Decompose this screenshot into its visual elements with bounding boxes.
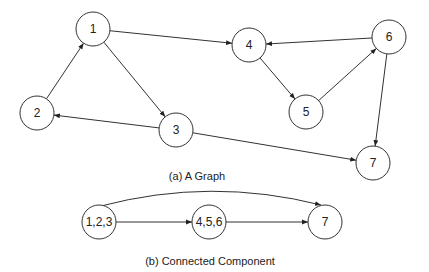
- graph-a-node-6: 6: [372, 20, 406, 54]
- graph-b-node-c456: 4,5,6: [192, 205, 226, 239]
- graph-a-edge-6-to-4: [266, 38, 372, 44]
- graph-a-edge-3-to-7: [193, 133, 356, 160]
- graph-a-node-2: 2: [20, 96, 54, 130]
- graph-a-node-7: 7: [356, 146, 390, 180]
- caption-connected-component: (b) Connected Component: [145, 255, 275, 267]
- graph-b-edge-c123-to-c7: [101, 191, 321, 206]
- node-label: 7: [370, 156, 377, 170]
- node-label: 4: [246, 38, 253, 52]
- graph-a-node-3: 3: [159, 113, 193, 147]
- node-label: 3: [173, 123, 180, 137]
- graph-a-edges: [46, 31, 386, 160]
- graph-a-edge-6-to-7: [375, 54, 387, 146]
- graph-b-node-c123: 1,2,3: [82, 205, 116, 239]
- graph-a-node-4: 4: [232, 28, 266, 62]
- node-label: 5: [303, 105, 310, 119]
- node-label: 1,2,3: [86, 215, 113, 229]
- graph-a-edge-1-to-4: [110, 31, 232, 44]
- graph-b-node-c7: 7: [308, 205, 342, 239]
- node-label: 7: [322, 215, 329, 229]
- graph-a-edge-1-to-3: [104, 42, 165, 117]
- graph-a-node-1: 1: [76, 12, 110, 46]
- diagram-canvas: 1234567 1,2,34,5,67: [0, 0, 429, 272]
- node-label: 6: [386, 30, 393, 44]
- node-label: 1: [90, 22, 97, 36]
- graph-a-node-5: 5: [289, 95, 323, 129]
- graph-a-edge-5-to-6: [319, 48, 377, 100]
- node-label: 4,5,6: [196, 215, 223, 229]
- graph-a-edge-2-to-1: [46, 43, 83, 99]
- node-label: 2: [34, 106, 41, 120]
- graph-a-edge-3-to-2: [54, 115, 159, 128]
- graph-a-nodes: 1234567: [20, 12, 406, 180]
- caption-graph-a: (a) A Graph: [169, 170, 225, 182]
- graph-a-edge-4-to-5: [260, 58, 295, 99]
